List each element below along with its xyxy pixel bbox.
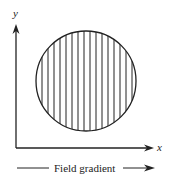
y-axis: y	[12, 7, 20, 148]
striped-circle	[36, 25, 136, 135]
y-axis-label: y	[12, 7, 18, 19]
x-axis-label: x	[156, 141, 162, 153]
x-axis: x	[16, 141, 162, 153]
caption-text: Field gradient	[54, 162, 115, 174]
field-gradient-diagram: y x Field gradient	[0, 0, 170, 182]
field-gradient-caption: Field gradient	[17, 162, 155, 174]
